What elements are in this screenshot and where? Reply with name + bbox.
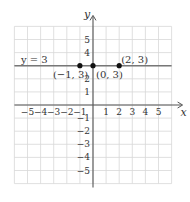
x-tick-label: −2 xyxy=(60,107,73,117)
y-tick-label: −2 xyxy=(77,126,90,136)
y-tick-label: 5 xyxy=(84,35,90,45)
line-label: y = 3 xyxy=(20,54,48,65)
y-tick-label: −1 xyxy=(77,113,90,123)
x-tick-label: 1 xyxy=(103,107,109,117)
coordinate-plane: xy −5−4−3−2−1123455421−1−2−3−4−5 y = 3(−… xyxy=(0,0,190,202)
y-tick-label: 1 xyxy=(84,87,90,97)
y-tick-label: −4 xyxy=(77,152,91,162)
x-tick-label: 5 xyxy=(156,107,162,117)
x-tick-label: −3 xyxy=(47,107,61,117)
y-tick-label: −3 xyxy=(77,139,91,149)
point-label: (−1, 3) xyxy=(53,69,88,80)
y-tick-label: 4 xyxy=(84,48,90,58)
point-label: (2, 3) xyxy=(121,54,148,65)
y-tick-label: −5 xyxy=(77,166,91,176)
x-tick-label: 4 xyxy=(143,107,149,117)
x-tick-label: −5 xyxy=(21,107,35,117)
x-tick-label: 3 xyxy=(129,107,135,117)
y-axis-label: y xyxy=(83,8,91,21)
point-label: (0, 3) xyxy=(96,69,123,80)
x-axis-label: x xyxy=(181,106,188,119)
x-tick-label: −4 xyxy=(34,107,48,117)
point-marker xyxy=(77,63,82,68)
point-marker xyxy=(90,63,95,68)
x-tick-label: 2 xyxy=(116,107,122,117)
